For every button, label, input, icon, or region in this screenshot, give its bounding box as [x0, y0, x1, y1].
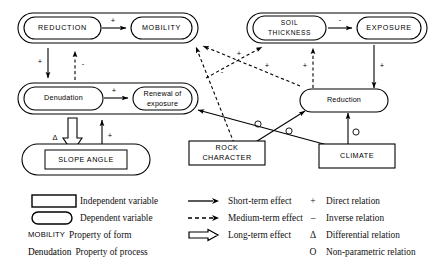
legend-item-long-term-effect: Long-term effect: [186, 226, 306, 243]
legend-column-relations: + Direct relation – Inverse relation Δ D…: [300, 192, 445, 260]
legend-symbol-delta: Δ: [300, 230, 326, 240]
node-label-renewal-line2: exposure: [147, 99, 178, 108]
legend-column-effects: Short-term effect Medium-term effect: [186, 192, 306, 243]
legend-swatch-solid-arrow: [186, 195, 228, 207]
node-label-slope-angle: SLOPE ANGLE: [58, 155, 113, 164]
legend-item-short-term-effect: Short-term effect: [186, 192, 306, 209]
node-renewal-of-exposure[interactable]: Renewal of exposure: [133, 87, 192, 110]
legend-key-denudation: Denudation: [28, 247, 71, 257]
edge-symbol-e13: [286, 128, 292, 134]
diagram-canvas: + - Δ + + + + + -: [0, 0, 445, 278]
legend-label-non-parametric-relation: Non-parametric relation: [326, 247, 416, 257]
legend-swatch-dashed-arrow: [186, 212, 228, 224]
legend-item-dependent-variable: Dependent variable: [28, 209, 188, 226]
edge-symbol-e4: -: [82, 59, 85, 68]
legend-symbol-circle: O: [300, 247, 326, 257]
legend-item-independent-variable: Independent variable: [28, 192, 188, 209]
legend-label-medium-term-effect: Medium-term effect: [228, 213, 303, 223]
node-reduction-caps[interactable]: REDUCTION: [24, 17, 101, 39]
legend-label-differential-relation: Differential relation: [326, 230, 400, 240]
node-reduction-mixed[interactable]: Reduction: [300, 89, 388, 112]
node-exposure[interactable]: EXPOSURE: [357, 17, 421, 39]
legend-label-property-of-form: Property of form: [69, 230, 131, 240]
edge-symbol-e3: +: [38, 57, 43, 66]
node-label-renewal-line1: Renewal of: [144, 89, 182, 98]
node-label-reduction-caps: REDUCTION: [38, 23, 87, 32]
legend-swatch-rounded: [28, 211, 80, 225]
edge-renewal-to-soil-thickness: [206, 47, 262, 78]
node-label-mobility: MOBILITY: [142, 23, 181, 32]
legend-column-shapes: Independent variable Dependent variable …: [28, 192, 188, 260]
legend-swatch-hollow-arrow: [186, 228, 228, 242]
legend-item-property-of-form: MOBILITY Property of form: [28, 226, 188, 243]
legend: Independent variable Dependent variable …: [0, 186, 445, 278]
legend-label-inverse-relation: Inverse relation: [326, 213, 384, 223]
legend-label-property-of-process: Property of process: [75, 247, 147, 257]
node-label-rock-character-line2: CHARACTER: [202, 153, 251, 162]
legend-symbol-minus: –: [300, 213, 326, 223]
node-label-rock-character-line1: ROCK: [216, 143, 239, 152]
legend-key-mobility: MOBILITY: [28, 230, 65, 239]
legend-label-long-term-effect: Long-term effect: [228, 230, 291, 240]
edge-symbol-e11: +: [265, 61, 270, 70]
edge-symbol-e8: +: [380, 61, 385, 70]
edge-symbol-e7: +: [108, 131, 113, 140]
edge-symbol-e10: +: [237, 49, 242, 58]
node-soil-thickness[interactable]: SOIL THICKNESS: [253, 16, 326, 40]
legend-label-independent-variable: Independent variable: [80, 196, 158, 206]
node-denudation[interactable]: Denudation: [24, 87, 103, 110]
legend-item-property-of-process: Denudation Property of process: [28, 243, 188, 260]
legend-swatch-rectangle: [28, 194, 80, 208]
edge-symbol-e9: +: [303, 61, 308, 70]
legend-symbol-plus: +: [300, 196, 326, 206]
node-climate[interactable]: CLIMATE: [319, 144, 395, 168]
edge-rock-character-to-mobility: [196, 47, 234, 143]
node-label-climate: CLIMATE: [340, 151, 374, 160]
node-label-reduction-mixed: Reduction: [327, 95, 361, 104]
edge-symbol-e1: +: [111, 16, 116, 25]
edge-reduction-to-mobility: [203, 46, 300, 86]
node-label-soil-thickness-line2: THICKNESS: [268, 29, 311, 36]
legend-label-direct-relation: Direct relation: [326, 196, 380, 206]
legend-item-direct-relation: + Direct relation: [300, 192, 445, 209]
edge-symbol-e6: Δ: [52, 133, 57, 142]
legend-item-inverse-relation: – Inverse relation: [300, 209, 445, 226]
node-slope-angle[interactable]: SLOPE ANGLE: [22, 144, 150, 175]
legend-item-medium-term-effect: Medium-term effect: [186, 209, 306, 226]
legend-item-non-parametric-relation: O Non-parametric relation: [300, 243, 445, 260]
legend-item-differential-relation: Δ Differential relation: [300, 226, 445, 243]
legend-label-short-term-effect: Short-term effect: [228, 196, 292, 206]
edge-symbol-e15: [353, 129, 359, 135]
node-label-denudation: Denudation: [44, 93, 83, 102]
node-rock-character[interactable]: ROCK CHARACTER: [189, 141, 265, 165]
legend-label-dependent-variable: Dependent variable: [80, 213, 153, 223]
node-mobility[interactable]: MOBILITY: [131, 17, 192, 39]
node-label-soil-thickness-line1: SOIL: [281, 19, 298, 26]
edge-symbol-e5: +: [112, 86, 117, 95]
node-label-exposure: EXPOSURE: [366, 23, 412, 32]
